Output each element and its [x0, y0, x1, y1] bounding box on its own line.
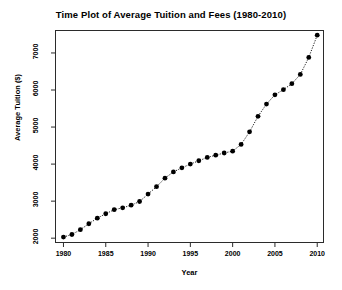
data-point-marker: [213, 153, 218, 158]
plot-svg: [0, 0, 342, 290]
data-point-marker: [315, 33, 320, 38]
data-point-marker: [171, 169, 176, 174]
data-point-marker: [298, 72, 303, 77]
x-tick-label: 1995: [170, 250, 210, 257]
data-point-marker: [103, 211, 108, 216]
x-axis-label: Year: [55, 268, 324, 277]
data-point-marker: [230, 149, 235, 154]
data-point-marker: [222, 151, 227, 156]
data-point-marker: [70, 232, 75, 237]
y-axis-label: Average Tuition ($): [13, 58, 22, 158]
y-tick-label: 3000: [32, 185, 39, 215]
data-point-marker: [264, 102, 269, 107]
y-tick-label: 5000: [32, 111, 39, 141]
data-series-line: [63, 35, 317, 237]
data-point-marker: [239, 142, 244, 147]
data-point-marker: [289, 81, 294, 86]
data-point-marker: [61, 235, 66, 240]
data-point-marker: [146, 192, 151, 197]
x-tick-label: 1985: [86, 250, 126, 257]
x-tick-label: 2005: [255, 250, 295, 257]
y-tick-label: 6000: [32, 74, 39, 104]
data-point-marker: [281, 87, 286, 92]
y-tick-label: 7000: [32, 36, 39, 66]
data-point-marker: [120, 205, 125, 210]
data-point-marker: [137, 199, 142, 204]
data-point-marker: [205, 155, 210, 160]
data-point-marker: [154, 184, 159, 189]
data-point-marker: [188, 162, 193, 167]
x-tick-label: 1980: [43, 250, 83, 257]
data-point-marker: [256, 114, 261, 119]
y-tick-label: 4000: [32, 148, 39, 178]
x-tick-label: 1990: [128, 250, 168, 257]
data-point-marker: [112, 207, 117, 212]
data-point-marker: [78, 227, 83, 232]
data-point-marker: [273, 92, 278, 97]
data-point-marker: [86, 221, 91, 226]
y-tick-label: 2000: [32, 222, 39, 252]
data-point-marker: [129, 203, 134, 208]
data-point-marker: [247, 129, 252, 134]
data-point-marker: [95, 216, 100, 221]
x-tick-label: 2000: [213, 250, 253, 257]
data-point-marker: [163, 176, 168, 181]
x-tick-label: 2010: [297, 250, 337, 257]
data-point-marker: [179, 165, 184, 170]
data-point-marker: [306, 55, 311, 60]
data-point-marker: [196, 158, 201, 163]
tuition-time-plot: Time Plot of Average Tuition and Fees (1…: [0, 0, 342, 290]
